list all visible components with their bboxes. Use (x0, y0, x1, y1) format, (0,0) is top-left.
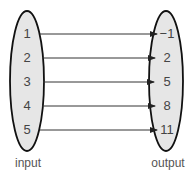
input-value: 5 (23, 122, 30, 137)
input-label: input (15, 156, 42, 170)
input-value: 3 (23, 74, 30, 89)
output-label: output (151, 156, 185, 170)
output-value: 2 (163, 50, 170, 65)
input-value: 2 (23, 50, 30, 65)
output-value: 5 (163, 74, 170, 89)
output-value: 11 (160, 122, 174, 137)
output-value: −1 (160, 26, 175, 41)
mapping-diagram: 1 2 3 4 5 −1 2 5 8 11 input output (0, 0, 191, 181)
output-value: 8 (163, 98, 170, 113)
input-value: 4 (23, 98, 30, 113)
mapping-arrows (40, 34, 157, 130)
input-value: 1 (23, 26, 30, 41)
